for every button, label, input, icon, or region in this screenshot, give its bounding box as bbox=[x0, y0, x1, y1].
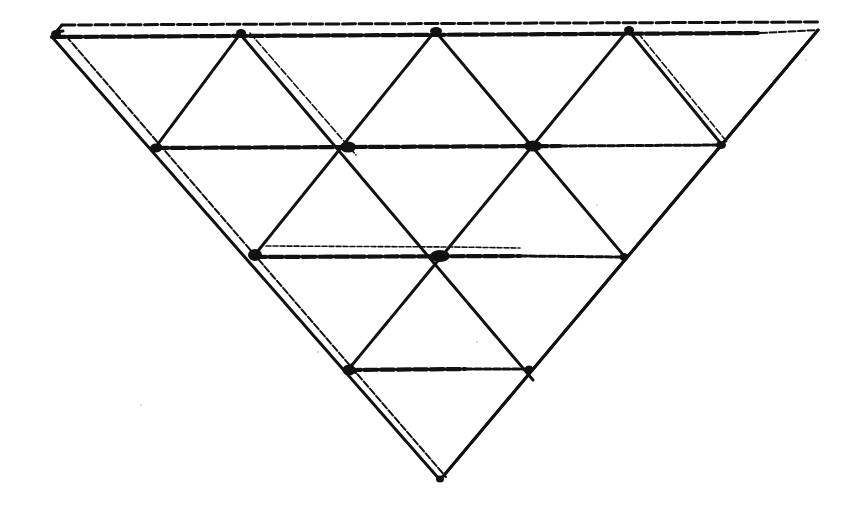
triangular-grid-drawing: Inverted triangular grid line drawing bbox=[0, 0, 862, 517]
row-2-horizontal-line-tail bbox=[560, 145, 722, 146]
row-3-horizontal-upper-line bbox=[266, 246, 455, 247]
speckle bbox=[140, 404, 142, 406]
node-r1-v2 bbox=[430, 27, 442, 35]
node-r1-v3 bbox=[624, 26, 634, 34]
node-r3-mid bbox=[430, 250, 450, 262]
row-4-horizontal-line bbox=[348, 369, 465, 370]
speckle bbox=[596, 204, 598, 206]
node-r2-left bbox=[150, 144, 162, 153]
node-r3-right bbox=[620, 253, 629, 261]
figure-root: Inverted triangular grid line drawing bbox=[0, 0, 862, 517]
row-3-horizontal-main-line-tail bbox=[520, 256, 625, 257]
speckle bbox=[805, 59, 807, 61]
speckle bbox=[476, 341, 478, 343]
node-r2-mid-r bbox=[524, 141, 542, 152]
node-r2-mid-l bbox=[340, 142, 356, 153]
node-r1-v1 bbox=[236, 29, 246, 37]
row-2-horizontal-line bbox=[155, 146, 560, 148]
row-3-horizontal-main-line bbox=[253, 256, 520, 257]
node-r4-right bbox=[525, 366, 533, 373]
node-apex-bottom bbox=[436, 476, 444, 483]
node-r2-right bbox=[716, 141, 726, 149]
node-top-left bbox=[51, 30, 61, 38]
speckle bbox=[317, 351, 319, 353]
node-r3-left bbox=[248, 249, 262, 261]
node-r4-left bbox=[343, 365, 356, 376]
